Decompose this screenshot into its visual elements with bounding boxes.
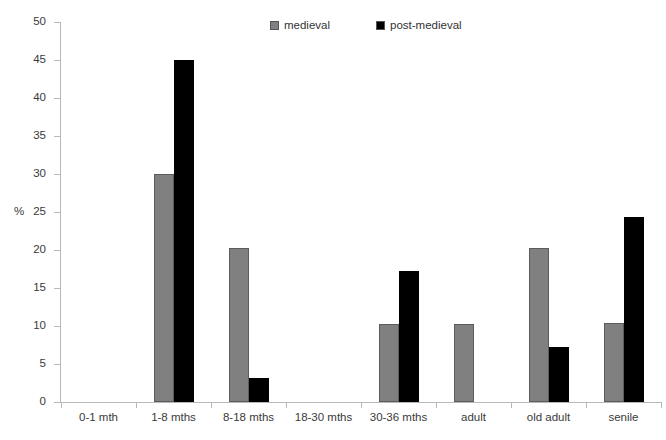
y-axis-tick-label: 25 — [0, 206, 46, 218]
x-axis-label: senile — [608, 412, 638, 424]
bar-chart: medieval post-medieval % 051015202530354… — [0, 0, 666, 440]
bar-post-medieval-old-adult — [549, 347, 569, 402]
x-axis-label: 18-30 mths — [295, 412, 353, 424]
bar-medieval-1-8-mths — [154, 174, 174, 402]
x-axis-label: adult — [461, 412, 486, 424]
y-axis-tick — [54, 136, 61, 137]
y-axis-tick-label: 10 — [0, 320, 46, 332]
plot-area — [61, 22, 661, 402]
y-axis-tick-label: 50 — [0, 16, 46, 28]
bar-medieval-adult — [454, 324, 474, 402]
x-axis-tick — [61, 402, 62, 408]
y-axis-tick — [54, 250, 61, 251]
bar-post-medieval-1-8-mths — [174, 60, 194, 402]
y-axis-tick-label: 15 — [0, 282, 46, 294]
x-axis-tick — [286, 402, 287, 408]
x-axis-tick — [661, 402, 662, 408]
y-axis-tick — [54, 326, 61, 327]
y-axis-tick — [54, 364, 61, 365]
x-axis-label: 0-1 mth — [79, 412, 118, 424]
x-axis-tick — [511, 402, 512, 408]
y-axis-tick — [54, 22, 61, 23]
bar-medieval-8-18-mths — [229, 248, 249, 402]
bar-post-medieval-senile — [624, 217, 644, 402]
y-axis-tick-label: 35 — [0, 130, 46, 142]
y-axis-tick — [54, 98, 61, 99]
x-axis-tick — [211, 402, 212, 408]
bar-post-medieval-8-18-mths — [249, 378, 269, 402]
bar-medieval-old-adult — [529, 248, 549, 402]
y-axis-tick-label: 45 — [0, 54, 46, 66]
x-axis-label: 1-8 mths — [151, 412, 196, 424]
y-axis-tick-label: 20 — [0, 244, 46, 256]
x-axis-tick — [436, 402, 437, 408]
y-axis-tick — [54, 212, 61, 213]
y-axis-tick-label: 5 — [0, 358, 46, 370]
y-axis-tick-label: 30 — [0, 168, 46, 180]
y-axis-tick — [54, 288, 61, 289]
y-axis-tick — [54, 60, 61, 61]
y-axis-tick-label: 0 — [0, 396, 46, 408]
y-axis-tick — [54, 402, 61, 403]
x-axis-tick — [586, 402, 587, 408]
y-axis-tick — [54, 174, 61, 175]
x-axis-label: 8-18 mths — [223, 412, 274, 424]
y-axis-tick-label: 40 — [0, 92, 46, 104]
bar-medieval-30-36-mths — [379, 324, 399, 402]
x-axis-tick — [361, 402, 362, 408]
x-axis-label: old adult — [527, 412, 570, 424]
x-axis-tick — [136, 402, 137, 408]
bar-medieval-senile — [604, 323, 624, 402]
bar-post-medieval-30-36-mths — [399, 271, 419, 402]
x-axis-label: 30-36 mths — [370, 412, 428, 424]
